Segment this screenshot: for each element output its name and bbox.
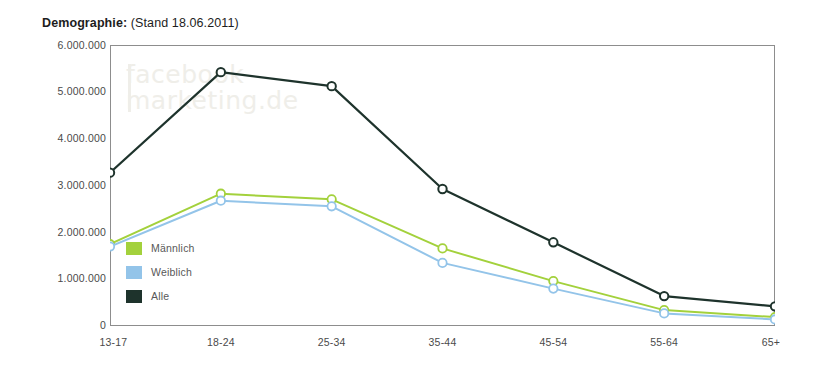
x-axis: 13-1718-2425-3435-4445-5455-6465+ [0,0,818,369]
legend-weiblich[interactable]: Weiblich [126,260,246,284]
x-tick-label: 55-64 [650,336,678,348]
legend-label: Männlich [151,242,195,254]
legend-swatch-icon [126,266,142,279]
x-tick-label: 25-34 [318,336,346,348]
x-tick-label: 45-54 [539,336,567,348]
x-tick-label: 18-24 [207,336,235,348]
legend-swatch-icon [126,242,142,255]
legend-alle[interactable]: Alle [126,284,246,308]
chart-legend: MännlichWeiblichAlle [126,236,246,308]
legend-maennlich[interactable]: Männlich [126,236,246,260]
legend-label: Alle [151,290,169,302]
x-tick-label: 65+ [762,336,780,348]
x-tick-label: 13-17 [99,336,127,348]
legend-swatch-icon [126,290,142,303]
legend-label: Weiblich [151,266,192,278]
demographics-chart: Demographie: (Stand 18.06.2011) 01.000.0… [0,0,818,369]
x-tick-label: 35-44 [429,336,457,348]
